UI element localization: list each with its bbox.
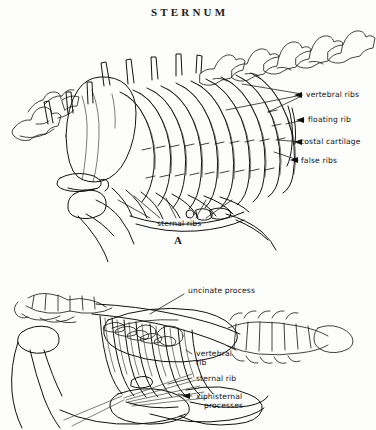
label-uncinate-process: uncinate process [188, 286, 255, 296]
posterior-process [226, 214, 276, 250]
figure-b-drawing [0, 280, 376, 430]
caudal-vertebrae [228, 311, 353, 364]
label-sternal-rib: sternal rib [196, 374, 236, 384]
scapula-blade [66, 77, 136, 182]
rib-cage-arcs [120, 73, 295, 209]
leader-lines-figure-a [118, 84, 304, 218]
label-xiphisternal-line2: processes [204, 401, 243, 411]
cervical-vertebrae-b [14, 294, 112, 323]
label-costal-cartilage: costal cartilage [300, 137, 361, 147]
thoracic-vertebrae [101, 54, 202, 86]
label-false-ribs: false ribs [301, 156, 337, 166]
rib-inner-contours [125, 76, 296, 179]
vertebral-column-segments [200, 31, 375, 85]
figure-letter-a: A [174, 234, 182, 246]
dorsal-spines [44, 82, 93, 124]
coracoid-b [12, 326, 62, 428]
label-sternal-ribs: sternal ribs [157, 219, 201, 229]
cervical-vertebrae [12, 90, 79, 141]
label-vertebral-ribs: vertebral ribs [306, 90, 359, 100]
label-vertebral-rib-line2: rib [196, 358, 207, 368]
label-floating-rib: floating rib [308, 115, 351, 125]
